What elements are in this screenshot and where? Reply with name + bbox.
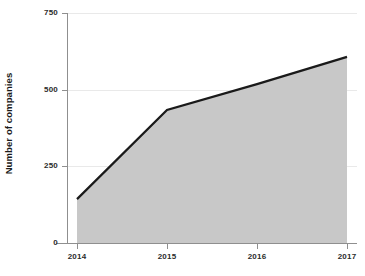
data-series-area: [0, 0, 365, 276]
area-chart: Number of companies 0250500750 201420152…: [0, 0, 365, 276]
area-fill-path: [77, 57, 347, 243]
